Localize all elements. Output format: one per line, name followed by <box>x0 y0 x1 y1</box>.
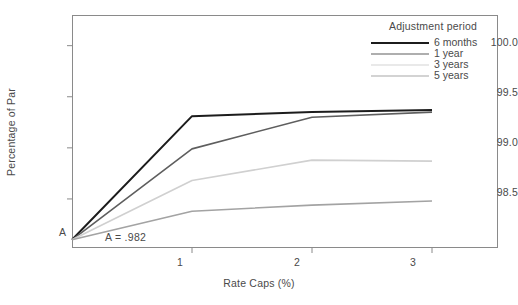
x-tick-label-1: 2 <box>282 257 312 268</box>
y-axis-title: Percentage of Par <box>5 72 17 192</box>
origin-note-label: A = .982 <box>105 231 146 243</box>
chart-figure: 100.099.599.098.5 123 Rate Caps (%) Perc… <box>0 0 518 305</box>
y-tick-label-2: 99.0 <box>456 137 518 148</box>
legend-title: Adjustment period <box>371 20 495 32</box>
x-tick-label-0: 1 <box>165 257 195 268</box>
legend-item-5-years[interactable]: 5 years <box>371 70 495 81</box>
x-axis-ticks <box>192 248 432 253</box>
y-tick-label-3: 98.5 <box>456 187 518 198</box>
legend-line-swatch <box>371 70 429 81</box>
x-tick-label-2: 3 <box>398 257 428 268</box>
chart-legend: Adjustment period 6 months1 year3 years5… <box>371 20 495 81</box>
legend-item-1-year[interactable]: 1 year <box>371 48 495 59</box>
y-tick-label-1: 99.5 <box>456 87 518 98</box>
x-axis-title: Rate Caps (%) <box>0 277 518 289</box>
legend-item-label: 5 years <box>429 70 468 81</box>
legend-item-3-years[interactable]: 3 years <box>371 59 495 70</box>
origin-marker-label: A <box>52 226 66 238</box>
legend-item-6-months[interactable]: 6 months <box>371 37 495 48</box>
legend-items: 6 months1 year3 years5 years <box>371 37 495 81</box>
legend-line-swatch <box>371 37 429 48</box>
legend-line-swatch <box>371 59 429 70</box>
legend-line-swatch <box>371 48 429 59</box>
